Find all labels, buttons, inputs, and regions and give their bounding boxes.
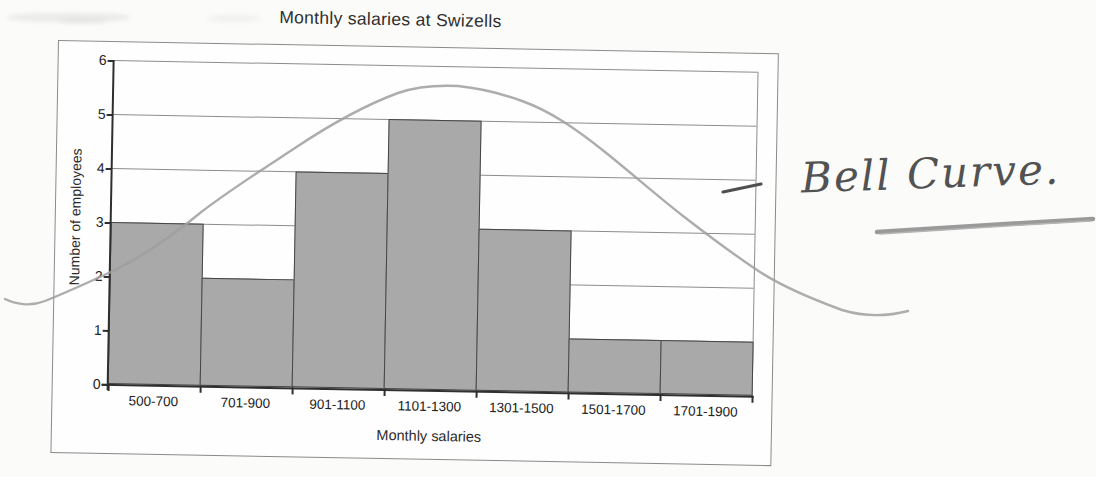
bar-1301-1500 (476, 229, 572, 393)
bar-1101-1300 (384, 119, 482, 391)
scanned-chart: Monthly salaries at Swizells Number of e… (42, 0, 791, 477)
bar-701-900 (200, 278, 295, 388)
y-tick-mark (106, 168, 112, 170)
y-tick-label: 2 (69, 267, 103, 284)
x-tick-mark (659, 394, 661, 401)
handwritten-underline (877, 219, 1093, 232)
x-tick-mark (384, 389, 386, 396)
handwritten-underline-texture (880, 221, 1090, 234)
bar-901-1100 (292, 171, 389, 389)
y-tick-label: 6 (73, 51, 107, 68)
y-tick-label: 0 (67, 375, 101, 392)
x-tick-mark (567, 392, 569, 399)
x-axis-title: Monthly salaries (329, 426, 529, 446)
bar-500-700 (108, 222, 204, 386)
y-tick-label: 4 (71, 159, 105, 176)
y-tick-mark (105, 222, 111, 224)
y-tick-mark (104, 276, 110, 278)
x-tick-mark (108, 384, 110, 391)
gridline-y6 (114, 60, 758, 73)
chart-title: Monthly salaries at Swizells (58, 3, 722, 36)
scanned-paper: Monthly salaries at Swizells Number of e… (0, 0, 1096, 477)
bar-1501-1700 (568, 338, 662, 394)
x-tick-mark (292, 387, 294, 394)
y-tick-label: 3 (70, 213, 104, 230)
x-tick-mark (200, 386, 202, 393)
x-tick-label: 1701-1900 (650, 403, 760, 420)
x-tick-mark (476, 391, 478, 398)
scan-page: { "chart_data": { "type": "bar", "title"… (0, 0, 1096, 477)
y-tick-label: 5 (72, 105, 106, 122)
x-tick-mark (751, 396, 753, 403)
bar-1701-1900 (660, 340, 754, 396)
y-tick-mark (103, 330, 109, 332)
handwritten-label: Bell Curve. (800, 144, 1061, 202)
y-tick-mark (107, 114, 113, 116)
y-tick-mark (108, 60, 114, 62)
y-tick-label: 1 (68, 321, 102, 338)
plot-area: Number of employees Monthly salaries 012… (50, 40, 778, 466)
